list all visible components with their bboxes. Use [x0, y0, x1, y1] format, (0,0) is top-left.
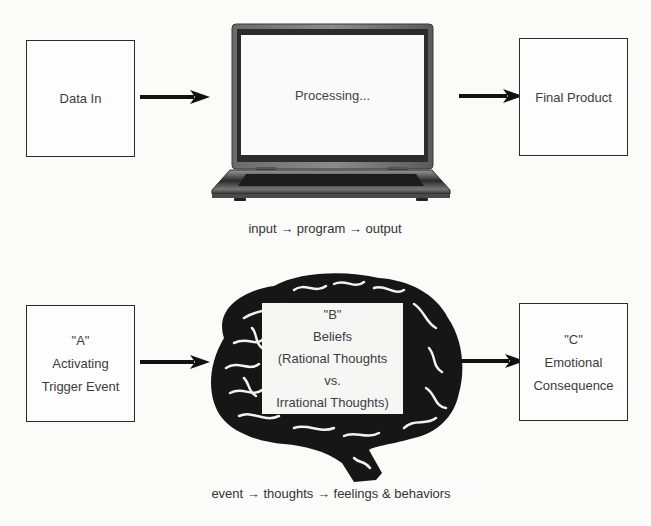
beliefs-box: "B" Beliefs (Rational Thoughts vs. Irrat… — [262, 303, 403, 414]
data-in-label: Data In — [60, 87, 102, 110]
laptop-screen-text: Processing... — [241, 35, 424, 155]
b-box-line: vs. — [276, 370, 389, 392]
c-box-line: Emotional — [533, 351, 613, 374]
a-box-line: Trigger Event — [42, 375, 120, 398]
computer-model-caption: input → program → output — [230, 221, 420, 236]
b-box-line: "B" — [276, 304, 389, 326]
emotional-consequence-box: "C" Emotional Consequence — [519, 303, 628, 421]
b-box-line: Irrational Thoughts) — [276, 392, 389, 414]
arrow-right-icon — [138, 88, 212, 106]
a-box-line: Activating — [42, 352, 120, 375]
a-box-line: "A" — [42, 329, 120, 352]
b-box-line: Beliefs — [276, 326, 389, 348]
abc-model-caption: event → thoughts → feelings & behaviors — [186, 486, 476, 501]
arrow-right-icon — [457, 352, 527, 370]
arrow-right-icon — [457, 87, 525, 105]
data-in-box: Data In — [26, 40, 135, 157]
c-box-line: Consequence — [533, 374, 613, 397]
activating-event-box: "A" Activating Trigger Event — [26, 305, 135, 422]
b-box-line: (Rational Thoughts — [276, 348, 389, 370]
final-product-label: Final Product — [535, 86, 612, 109]
arrow-right-icon — [138, 353, 212, 371]
final-product-box: Final Product — [519, 38, 628, 156]
c-box-line: "C" — [533, 328, 613, 351]
